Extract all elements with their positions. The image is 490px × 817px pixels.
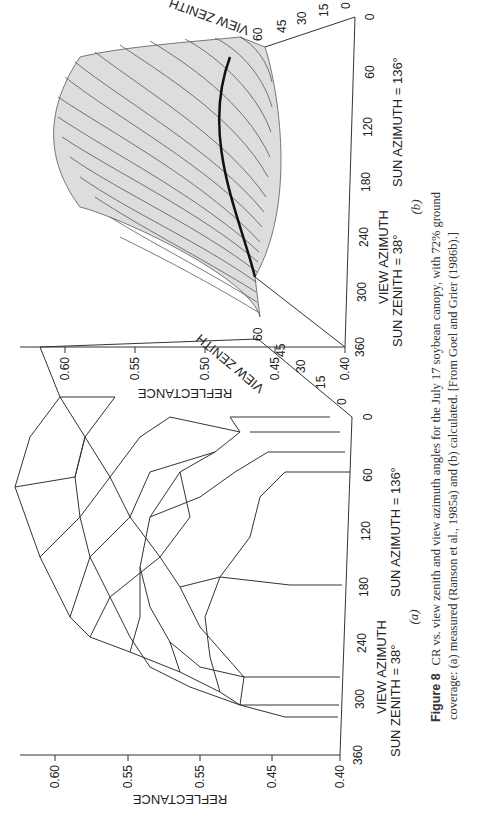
svg-text:120: 120 (359, 521, 373, 541)
svg-text:60: 60 (363, 65, 377, 79)
panel-b-surface (54, 37, 281, 317)
svg-text:240: 240 (357, 227, 371, 247)
svg-text:0.40: 0.40 (338, 357, 352, 381)
panel-a-chart (15, 339, 352, 761)
figure-caption: Figure 8CR vs. view zenith and view azim… (428, 82, 462, 722)
svg-text:180: 180 (359, 172, 373, 192)
svg-text:300: 300 (355, 282, 369, 302)
svg-text:SUN AZIMUTH = 136°: SUN AZIMUTH = 136° (390, 57, 405, 187)
svg-text:15: 15 (314, 375, 328, 389)
svg-text:REFLECTANCE: REFLECTANCE (137, 386, 232, 401)
svg-text:0.45: 0.45 (268, 357, 282, 381)
svg-text:45: 45 (274, 343, 288, 357)
svg-text:0.60: 0.60 (48, 765, 62, 789)
svg-text:0.60: 0.60 (58, 357, 72, 381)
figure-svg: 0.40 0.45 0.55 0.55 0.60 REFLECTANCE 360… (0, 0, 490, 817)
svg-text:0: 0 (361, 413, 375, 420)
panel-a-labels: 0.40 0.45 0.55 0.55 0.60 REFLECTANCE 360… (48, 327, 421, 807)
svg-text:360: 360 (353, 337, 367, 357)
svg-text:VIEW ZENITH: VIEW ZENITH (167, 0, 251, 38)
svg-text:0.45: 0.45 (265, 765, 279, 789)
svg-text:360: 360 (351, 745, 365, 765)
svg-text:0.55: 0.55 (121, 765, 135, 789)
svg-text:SUN ZENITH = 38°: SUN ZENITH = 38° (388, 645, 403, 757)
svg-text:0.40: 0.40 (333, 765, 347, 789)
svg-text:15: 15 (317, 3, 331, 17)
svg-text:45: 45 (275, 19, 289, 33)
svg-text:SUN AZIMUTH = 136°: SUN AZIMUTH = 136° (388, 467, 403, 597)
svg-text:VIEW AZIMUTH: VIEW AZIMUTH (376, 210, 391, 304)
svg-text:(a): (a) (406, 609, 421, 624)
caption-line-2: coverage: (a) measured (Ranson et al., 1… (445, 82, 462, 722)
svg-text:60: 60 (251, 327, 265, 341)
caption-line-1: CR vs. view zenith and view azimuth angl… (429, 192, 443, 665)
svg-text:60: 60 (361, 468, 375, 482)
svg-text:0: 0 (363, 13, 377, 20)
figure-number: Figure 8 (429, 673, 443, 722)
svg-text:60: 60 (251, 27, 265, 41)
svg-text:SUN ZENITH = 38°: SUN ZENITH = 38° (390, 235, 405, 347)
svg-text:0: 0 (335, 398, 349, 405)
svg-text:120: 120 (361, 117, 375, 137)
svg-text:300: 300 (353, 689, 367, 709)
svg-text:0.50: 0.50 (198, 357, 212, 381)
svg-text:0: 0 (339, 2, 353, 9)
svg-text:240: 240 (355, 633, 369, 653)
svg-text:(b): (b) (408, 199, 423, 214)
svg-text:180: 180 (357, 577, 371, 597)
svg-text:30: 30 (295, 11, 309, 25)
svg-text:REFLECTANCE: REFLECTANCE (132, 792, 227, 807)
svg-text:0.55: 0.55 (128, 357, 142, 381)
svg-text:VIEW AZIMUTH: VIEW AZIMUTH (374, 620, 389, 714)
svg-text:30: 30 (294, 359, 308, 373)
figure-page: 0.40 0.45 0.55 0.55 0.60 REFLECTANCE 360… (0, 0, 490, 817)
svg-text:0.55: 0.55 (193, 765, 207, 789)
